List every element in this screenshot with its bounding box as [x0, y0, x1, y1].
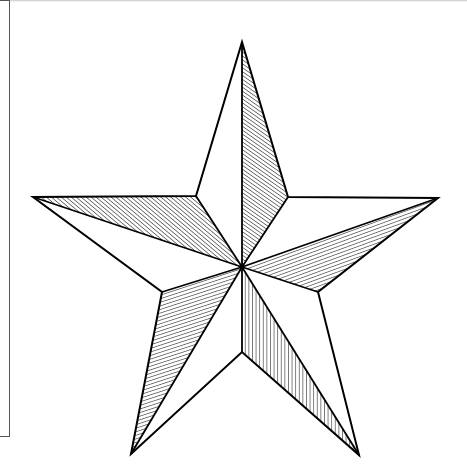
nautical-star-icon [0, 0, 467, 475]
star-ridge-lines [33, 42, 438, 455]
star-center-dot [240, 265, 245, 270]
star-outline [33, 42, 438, 455]
